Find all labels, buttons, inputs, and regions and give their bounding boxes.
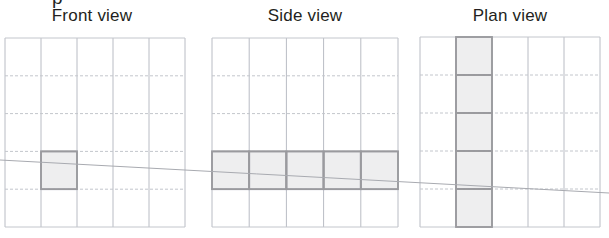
shaded-cell — [456, 75, 492, 113]
grid-front — [5, 38, 185, 227]
shaded-cell — [456, 189, 492, 227]
shaded-cell — [456, 113, 492, 151]
shaded-cell — [286, 151, 323, 189]
shaded-cell — [361, 151, 398, 189]
view-title-front: Front view — [0, 6, 202, 26]
shaded-cell — [456, 37, 492, 75]
view-panel-side: Side view — [195, 6, 415, 233]
shaded-cell — [212, 151, 249, 189]
grid-svg-side — [212, 38, 400, 229]
view-title-side: Side view — [195, 6, 415, 26]
shaded-cell — [324, 151, 361, 189]
view-panel-plan: Plan view — [400, 6, 609, 233]
grid-plan — [420, 37, 600, 227]
shaded-cell — [249, 151, 286, 189]
grid-svg-front — [5, 38, 187, 229]
shaded-cell — [41, 151, 77, 189]
grid-svg-plan — [420, 37, 602, 229]
view-panel-front: Front view — [0, 6, 202, 233]
shaded-cell — [456, 151, 492, 189]
grid-side — [212, 38, 398, 227]
view-title-plan: Plan view — [400, 6, 609, 26]
diagram-canvas: p Front view Side view Plan view — [0, 0, 609, 238]
